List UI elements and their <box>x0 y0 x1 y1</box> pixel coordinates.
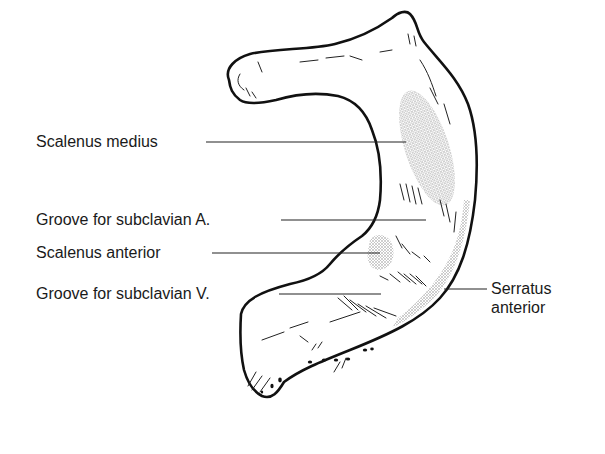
label-serratus-anterior: Serratus anterior <box>491 279 551 317</box>
label-groove-subclavian-v: Groove for subclavian V. <box>36 284 210 303</box>
label-scalenus-anterior: Scalenus anterior <box>36 243 161 262</box>
label-serratus-anterior-line1: Serratus <box>491 279 551 298</box>
label-scalenus-medius: Scalenus medius <box>36 132 158 151</box>
label-groove-subclavian-a: Groove for subclavian A. <box>36 210 210 229</box>
label-serratus-anterior-line2: anterior <box>491 298 551 317</box>
